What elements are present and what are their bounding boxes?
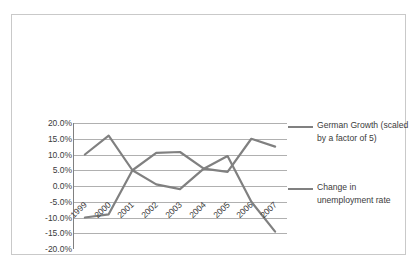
chart-frame: 20.0%15.0%10.0%5.0%0.0%-5.0%-10.0%-15.0%…: [11, 14, 406, 255]
legend-label: German Growth (scaled by a factor of 5): [317, 119, 416, 144]
y-tick-label: 0.0%: [20, 181, 72, 191]
y-tick-label: 20.0%: [20, 118, 72, 128]
y-tick-label: 15.0%: [20, 134, 72, 144]
legend-entry-2[interactable]: Change in unemployment rate: [288, 181, 416, 206]
legend-label: Change in unemployment rate: [317, 181, 416, 206]
y-tick-label: -15.0%: [20, 228, 72, 238]
legend-entry-1[interactable]: German Growth (scaled by a factor of 5): [288, 119, 416, 144]
y-tick-label: -10.0%: [20, 213, 72, 223]
legend-line-icon: [288, 126, 313, 128]
y-tick-label: -20.0%: [20, 244, 72, 254]
y-tick-label: 5.0%: [20, 165, 72, 175]
series-line-1: [85, 136, 275, 190]
y-tick-label: 10.0%: [20, 150, 72, 160]
chart-screenshot: 20.0%15.0%10.0%5.0%0.0%-5.0%-10.0%-15.0%…: [0, 0, 419, 271]
x-axis: 199920002001200220032004200520062007: [73, 211, 313, 261]
y-tick-label: -5.0%: [20, 197, 72, 207]
y-axis: 20.0%15.0%10.0%5.0%0.0%-5.0%-10.0%-15.0%…: [20, 116, 72, 256]
legend-line-icon: [288, 188, 313, 190]
